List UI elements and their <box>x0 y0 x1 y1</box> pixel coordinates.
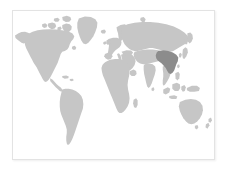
region-borneo[interactable] <box>172 83 180 91</box>
world-map-canvas[interactable] <box>13 11 214 159</box>
world-map-widget <box>12 10 215 160</box>
